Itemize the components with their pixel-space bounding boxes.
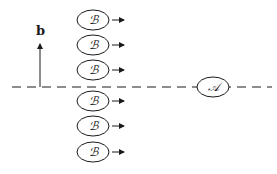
collision-diagram: b 𝒜 ℬℬℬℬℬℬ: [0, 0, 277, 174]
particle-b: ℬ: [77, 142, 124, 162]
impact-parameter-vector: b: [36, 23, 45, 87]
particle-b: ℬ: [77, 91, 124, 111]
particle-b: ℬ: [77, 60, 124, 80]
particle-b: ℬ: [77, 10, 124, 30]
particle-a: 𝒜: [197, 77, 229, 97]
particle-b: ℬ: [77, 35, 124, 55]
particle-b-column: ℬℬℬℬℬℬ: [77, 10, 124, 162]
vector-b-label: b: [36, 23, 45, 38]
particle-b: ℬ: [77, 116, 124, 136]
